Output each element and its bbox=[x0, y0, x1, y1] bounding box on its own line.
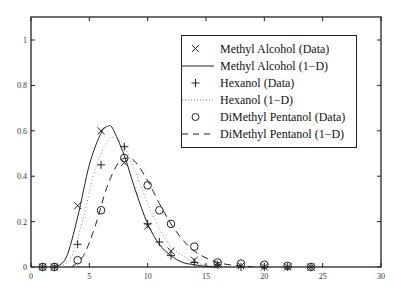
y-tick-label: 0 bbox=[23, 263, 27, 272]
circle-marker-icon bbox=[144, 181, 152, 189]
x-marker-icon bbox=[182, 40, 220, 58]
x-tick-label: 25 bbox=[319, 272, 327, 281]
x-tick-label: 0 bbox=[29, 272, 33, 281]
circle-marker-icon bbox=[156, 206, 164, 214]
circle-marker-icon bbox=[97, 206, 105, 214]
legend-label: DiMethyl Pentanol (Data) bbox=[220, 110, 345, 125]
legend-item-hexanol-data: Hexanol (Data) bbox=[182, 74, 356, 92]
plus-marker-icon bbox=[182, 74, 220, 92]
legend-label: Methyl Alcohol (Data) bbox=[220, 42, 329, 57]
y-tick-label: 0.2 bbox=[17, 218, 27, 227]
legend-item-dimethyl-data: DiMethyl Pentanol (Data) bbox=[182, 108, 356, 126]
solid-line-icon bbox=[182, 57, 220, 75]
y-tick-label: 1 bbox=[23, 36, 27, 45]
circle-marker-icon bbox=[191, 243, 199, 251]
legend-label: Hexanol (1−D) bbox=[220, 93, 293, 108]
legend-item-methyl-1d: Methyl Alcohol (1−D) bbox=[182, 57, 356, 75]
dotted-line-icon bbox=[182, 91, 220, 109]
y-tick-label: 0.6 bbox=[17, 127, 27, 136]
legend-box: Methyl Alcohol (Data) Methyl Alcohol (1−… bbox=[181, 35, 357, 148]
y-tick-label: 0.4 bbox=[17, 172, 27, 181]
circle-marker-icon bbox=[182, 108, 220, 126]
x-tick-label: 10 bbox=[144, 272, 152, 281]
legend-item-methyl-data: Methyl Alcohol (Data) bbox=[182, 40, 356, 58]
x-tick-label: 20 bbox=[260, 272, 268, 281]
circle-marker-icon bbox=[74, 256, 82, 264]
legend-item-hexanol-1d: Hexanol (1−D) bbox=[182, 91, 356, 109]
dashed-line-icon bbox=[182, 125, 220, 143]
hexanol-curve bbox=[60, 137, 229, 267]
y-tick-label: 0.8 bbox=[17, 81, 27, 90]
x-tick-label: 30 bbox=[377, 272, 385, 281]
legend-label: Hexanol (Data) bbox=[220, 76, 294, 91]
plus-marker-icon bbox=[155, 238, 163, 246]
x-tick-label: 15 bbox=[202, 272, 210, 281]
legend-label: DiMethyl Pentanol (1−D) bbox=[220, 127, 344, 142]
legend-item-dimethyl-1d: DiMethyl Pentanol (1−D) bbox=[182, 125, 356, 143]
plus-marker-icon bbox=[144, 220, 152, 228]
plus-marker-icon bbox=[74, 240, 82, 248]
legend-label: Methyl Alcohol (1−D) bbox=[220, 59, 328, 74]
plus-marker-icon bbox=[97, 161, 105, 169]
x-tick-label: 5 bbox=[87, 272, 91, 281]
